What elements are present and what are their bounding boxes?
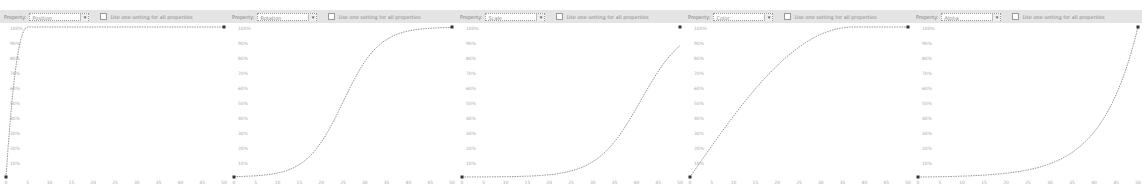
property-dropdown[interactable]: Scale▾ <box>485 13 545 21</box>
svg-text:40%: 40% <box>694 116 705 121</box>
svg-text:45: 45 <box>1113 180 1119 185</box>
svg-text:10%: 10% <box>922 161 933 166</box>
use-one-setting-label: Use one setting for all properties <box>1022 14 1104 20</box>
svg-text:35: 35 <box>1069 180 1075 185</box>
svg-text:25: 25 <box>1025 180 1031 185</box>
svg-text:90%: 90% <box>694 41 705 46</box>
svg-text:90%: 90% <box>238 41 249 46</box>
svg-text:10: 10 <box>275 180 281 185</box>
use-one-setting-label: Use one setting for all properties <box>338 14 420 20</box>
svg-text:35: 35 <box>612 180 618 185</box>
svg-text:20: 20 <box>546 180 552 185</box>
svg-text:40%: 40% <box>922 116 933 121</box>
svg-text:50: 50 <box>677 180 683 185</box>
svg-text:40: 40 <box>1091 180 1097 185</box>
svg-text:40: 40 <box>862 180 868 185</box>
svg-text:60%: 60% <box>238 86 249 91</box>
panel-toolbar: Property: Scale▾ Use one setting for all… <box>456 10 684 23</box>
property-dropdown[interactable]: Alpha▾ <box>941 13 1001 21</box>
svg-text:100%: 100% <box>922 26 936 31</box>
svg-text:30%: 30% <box>922 131 933 136</box>
svg-text:50: 50 <box>221 180 227 185</box>
svg-text:5: 5 <box>254 180 257 185</box>
svg-text:30: 30 <box>134 180 140 185</box>
svg-text:70%: 70% <box>466 71 477 76</box>
svg-text:50: 50 <box>905 180 911 185</box>
easing-panel-5: Property: Alpha▾ Use one setting for all… <box>912 0 1142 189</box>
svg-text:30%: 30% <box>238 131 249 136</box>
svg-text:30: 30 <box>818 180 824 185</box>
svg-text:15: 15 <box>753 180 759 185</box>
svg-text:45: 45 <box>883 180 889 185</box>
easing-panel-4: Property: Color▾ Use one setting for all… <box>684 0 912 189</box>
property-dropdown[interactable]: Color▾ <box>713 13 773 21</box>
easing-curve-plot[interactable]: 100%90%80%70%60%50%40%30%20%10%051015202… <box>456 23 684 189</box>
svg-text:90%: 90% <box>10 41 21 46</box>
svg-text:15: 15 <box>981 180 987 185</box>
easing-curve-plot[interactable]: 100%90%80%70%60%50%40%30%20%10%051015202… <box>0 23 228 189</box>
svg-text:20%: 20% <box>922 146 933 151</box>
svg-text:5: 5 <box>482 180 485 185</box>
svg-text:20%: 20% <box>238 146 249 151</box>
use-one-setting-checkbox[interactable] <box>100 13 107 20</box>
easing-panel-1: Property: Position▾ Use one setting for … <box>0 0 228 189</box>
easing-editor-row: Property: Position▾ Use one setting for … <box>0 0 1142 189</box>
panel-toolbar: Property: Color▾ Use one setting for all… <box>684 10 912 23</box>
chevron-down-icon: ▾ <box>992 14 1000 21</box>
svg-text:0: 0 <box>5 180 8 185</box>
svg-text:90%: 90% <box>466 41 477 46</box>
svg-text:70%: 70% <box>694 71 705 76</box>
svg-text:60%: 60% <box>922 86 933 91</box>
svg-text:30: 30 <box>1047 180 1053 185</box>
svg-text:25: 25 <box>796 180 802 185</box>
property-dropdown[interactable]: Position▾ <box>29 13 89 21</box>
chevron-down-icon: ▾ <box>536 14 544 21</box>
svg-text:100%: 100% <box>466 26 480 31</box>
chevron-down-icon: ▾ <box>308 14 316 21</box>
svg-text:35: 35 <box>156 180 162 185</box>
easing-curve-plot[interactable]: 100%90%80%70%60%50%40%30%20%10%051015202… <box>684 23 912 189</box>
svg-text:0: 0 <box>689 180 692 185</box>
property-label: Property: <box>916 14 938 20</box>
svg-text:50%: 50% <box>466 101 477 106</box>
svg-text:50%: 50% <box>238 101 249 106</box>
chevron-down-icon: ▾ <box>764 14 772 21</box>
svg-text:80%: 80% <box>238 56 249 61</box>
svg-text:20%: 20% <box>10 146 21 151</box>
svg-text:40%: 40% <box>238 116 249 121</box>
easing-curve-plot[interactable]: 100%90%80%70%60%50%40%30%20%10%051015202… <box>228 23 456 189</box>
svg-text:15: 15 <box>297 180 303 185</box>
easing-curve-plot[interactable]: 100%90%80%70%60%50%40%30%20%10%051015202… <box>912 23 1142 189</box>
svg-text:20: 20 <box>774 180 780 185</box>
svg-text:0: 0 <box>461 180 464 185</box>
svg-text:50: 50 <box>449 180 455 185</box>
svg-text:30%: 30% <box>466 131 477 136</box>
svg-text:20: 20 <box>90 180 96 185</box>
svg-text:25: 25 <box>112 180 118 185</box>
panel-toolbar: Property: Rotation▾ Use one setting for … <box>228 10 456 23</box>
svg-text:50: 50 <box>1135 180 1141 185</box>
svg-text:10: 10 <box>47 180 53 185</box>
use-one-setting-checkbox[interactable] <box>784 13 791 20</box>
svg-text:100%: 100% <box>10 26 24 31</box>
svg-text:20: 20 <box>318 180 324 185</box>
panel-toolbar: Property: Position▾ Use one setting for … <box>0 10 228 23</box>
svg-text:25: 25 <box>568 180 574 185</box>
svg-text:45: 45 <box>655 180 661 185</box>
property-dropdown[interactable]: Rotation▾ <box>257 13 317 21</box>
svg-text:15: 15 <box>69 180 75 185</box>
svg-text:10: 10 <box>503 180 509 185</box>
svg-text:30: 30 <box>362 180 368 185</box>
svg-text:5: 5 <box>710 180 713 185</box>
svg-text:35: 35 <box>384 180 390 185</box>
property-label: Property: <box>688 14 710 20</box>
use-one-setting-label: Use one setting for all properties <box>566 14 648 20</box>
svg-text:0: 0 <box>233 180 236 185</box>
use-one-setting-checkbox[interactable] <box>1012 13 1019 20</box>
use-one-setting-checkbox[interactable] <box>556 13 563 20</box>
svg-text:10%: 10% <box>466 161 477 166</box>
property-label: Property: <box>460 14 482 20</box>
svg-text:10%: 10% <box>238 161 249 166</box>
svg-text:80%: 80% <box>466 56 477 61</box>
use-one-setting-checkbox[interactable] <box>328 13 335 20</box>
